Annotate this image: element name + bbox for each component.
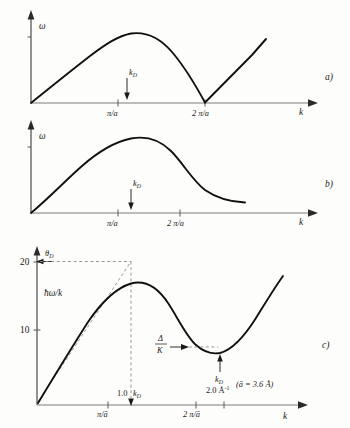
panel-c-delta-arrow-head — [181, 344, 189, 350]
panel-b-x-axis-arrow — [308, 209, 318, 217]
panel-c-kd-min-label: kD — [215, 375, 224, 385]
panel-c-x-axis-label: k — [283, 411, 288, 421]
panel-c-y-axis-arrow — [34, 246, 41, 256]
panel-a-letter: a) — [325, 71, 333, 83]
panel-a-xtick-label-pi-a: π/a — [107, 109, 118, 118]
panel-b-dispersion-curve — [31, 138, 245, 213]
panel-b-xtick-label-2pi-a: 2 π/a — [167, 219, 184, 228]
panel-c-xtick-label-2pi-abar: 2 π/ā — [183, 410, 200, 419]
panel-c-x-axis-arrow — [298, 401, 308, 409]
panel-c-xtick-label-pi-abar: π/ā — [97, 410, 108, 419]
panel-a-y-axis-label: ω — [39, 21, 46, 31]
panel-c-theta-d-label: θD — [45, 249, 54, 259]
panel-c-letter: c) — [322, 339, 329, 351]
panel-c-ytick-label-10: 10 — [20, 325, 30, 335]
panel-a: kD ω k π/a 2 π/a a) — [28, 10, 334, 118]
panel-c-y-axis-label: ħω/k — [44, 288, 63, 298]
panel-b-xtick-label-pi-a: π/a — [107, 219, 118, 228]
panel-b-y-axis-label: ω — [39, 131, 46, 141]
panel-a-dispersion-curve — [31, 33, 205, 103]
panel-b-letter: b) — [325, 178, 333, 190]
panel-a-xtick-label-2pi-a: 2 π/a — [192, 109, 209, 118]
panel-b-y-axis-arrow — [28, 120, 35, 130]
panel-c-delta-denominator: K — [156, 346, 163, 355]
panel-a-x-axis-arrow — [308, 99, 318, 107]
panel-b-kd-label: kD — [133, 179, 142, 189]
panel-c-xtick-label-1: 1.0 — [117, 389, 127, 398]
panel-c-kd-min-arrow — [217, 354, 223, 362]
panel-a-x-axis-label: k — [299, 107, 304, 117]
panel-a-second-branch — [205, 39, 266, 103]
panel-c-delta-numerator: Δ — [157, 334, 163, 343]
panel-c-kd-axis-label: kD — [133, 389, 142, 399]
panel-a-y-axis-arrow — [28, 10, 35, 20]
panel-b: kD ω k π/a 2 π/a b) — [28, 120, 334, 228]
panel-b-kd-arrow — [128, 203, 134, 211]
panel-a-kd-arrow — [124, 93, 130, 101]
panel-c-xtick-label-2-angstrom: 2.0 Å-1 — [206, 385, 230, 395]
panel-a-kd-label: kD — [129, 68, 138, 78]
panel-c-lattice-constant-note: (ā = 3.6 Å) — [236, 380, 273, 389]
phonon-dispersion-figure: kD ω k π/a 2 π/a a) kD ω k π/a 2 π/a b) — [0, 0, 350, 428]
panel-c: 20 10 θD Δ K kD kD π/ā 1.0 2 π/ — [20, 246, 329, 421]
panel-c-ytick-label-20: 20 — [20, 257, 30, 267]
panel-b-x-axis-label: k — [299, 217, 304, 227]
